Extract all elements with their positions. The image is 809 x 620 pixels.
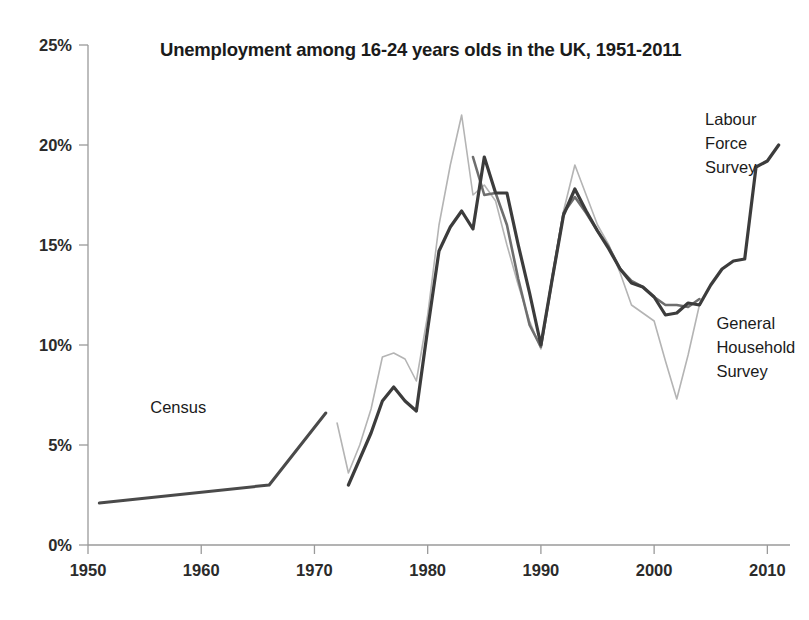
x-axis-ticks: 1950196019701980199020002010 (70, 545, 786, 579)
unemployment-line-chart: Unemployment among 16-24 years olds in t… (0, 0, 809, 620)
chart-title: Unemployment among 16-24 years olds in t… (160, 39, 681, 60)
y-axis: 0%5%10%15%20%25% (39, 36, 88, 554)
annotation-census: Census (150, 398, 206, 416)
series-line-labour-force-survey (348, 145, 778, 485)
y-tick-label: 0% (48, 536, 72, 554)
x-tick-label: 2010 (749, 561, 786, 579)
x-axis: 1950196019701980199020002010 (70, 545, 790, 579)
y-tick-label: 10% (39, 336, 72, 354)
y-tick-label: 15% (39, 236, 72, 254)
chart-series-group (99, 115, 778, 503)
annotation-labour-force-survey: Labour (705, 110, 757, 128)
x-tick-label: 2000 (636, 561, 673, 579)
annotation-general-household-survey: Survey (716, 362, 768, 380)
x-tick-label: 1990 (523, 561, 560, 579)
chart-container: Unemployment among 16-24 years olds in t… (0, 0, 809, 620)
y-axis-ticks: 0%5%10%15%20%25% (39, 36, 88, 554)
annotation-labour-force-survey: Survey (705, 158, 757, 176)
annotation-general-household-survey: General (716, 314, 775, 332)
x-tick-label: 1970 (296, 561, 333, 579)
y-tick-label: 5% (48, 436, 72, 454)
x-tick-label: 1980 (409, 561, 446, 579)
annotation-general-household-survey: Household (716, 338, 795, 356)
y-tick-label: 25% (39, 36, 72, 54)
x-tick-label: 1950 (70, 561, 107, 579)
annotation-labour-force-survey: Force (705, 134, 747, 152)
series-line-census (99, 413, 325, 503)
series-line-general-household-survey (337, 115, 699, 473)
series-line-labour-force-survey-secondary (473, 157, 699, 347)
x-tick-label: 1960 (183, 561, 220, 579)
y-tick-label: 20% (39, 136, 72, 154)
